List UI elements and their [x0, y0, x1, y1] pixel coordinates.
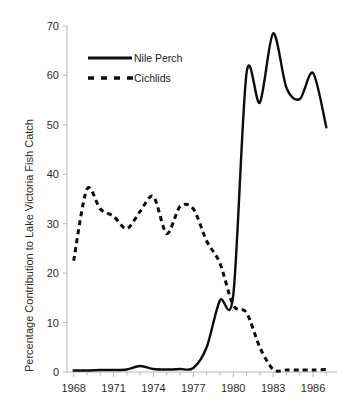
x-tick-label-1968: 1968	[61, 382, 85, 394]
x-tick-label-1971: 1971	[101, 382, 125, 394]
y-tick-label-60: 60	[47, 69, 59, 81]
legend-label-cichlids: Cichlids	[134, 72, 171, 84]
y-tick-label-40: 40	[47, 168, 59, 180]
x-tick-label-1977: 1977	[181, 382, 205, 394]
x-tick-label-1980: 1980	[221, 382, 245, 394]
y-tick-label-30: 30	[47, 218, 59, 230]
x-tick-label-1974: 1974	[141, 382, 165, 394]
y-tick-label-0: 0	[53, 366, 59, 378]
chart-container: Percentage Contribution to Lake Victoria…	[0, 0, 350, 410]
fish-catch-line-chart: Percentage Contribution to Lake Victoria…	[0, 0, 350, 410]
y-tick-label-10: 10	[47, 317, 59, 329]
y-axis-title-text: Percentage Contribution to Lake Victoria…	[23, 119, 35, 372]
x-tick-label-1983: 1983	[261, 382, 285, 394]
x-tick-label-1986: 1986	[301, 382, 325, 394]
y-tick-label-20: 20	[47, 267, 59, 279]
legend-label-nile-perch: Nile Perch	[134, 52, 183, 64]
y-tick-label-50: 50	[47, 119, 59, 131]
y-axis-title: Percentage Contribution to Lake Victoria…	[23, 119, 35, 372]
y-tick-label-70: 70	[47, 20, 59, 32]
